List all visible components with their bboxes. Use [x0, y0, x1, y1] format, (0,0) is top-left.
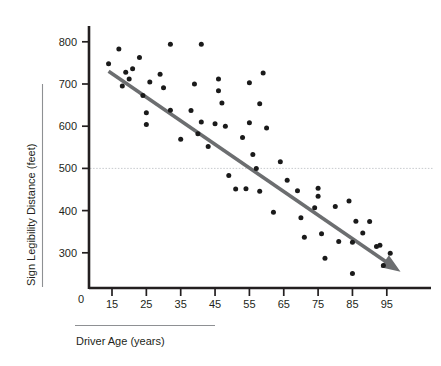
- y-tick-label-600: 600: [59, 120, 77, 132]
- data-point: [322, 256, 327, 261]
- data-point: [213, 121, 218, 126]
- data-point: [350, 240, 355, 245]
- data-point: [298, 215, 303, 220]
- data-point: [233, 187, 238, 192]
- data-point: [388, 251, 393, 256]
- scatter-plot-svg: 300400500600700800 152535455565758595 0 …: [0, 0, 441, 366]
- data-point: [189, 108, 194, 113]
- x-tick-label-45: 45: [209, 298, 221, 310]
- data-point: [127, 76, 132, 81]
- data-point: [116, 46, 121, 51]
- data-point: [243, 186, 248, 191]
- data-point: [137, 55, 142, 60]
- data-point: [219, 100, 224, 105]
- data-point: [144, 122, 149, 127]
- x-tick-label-55: 55: [243, 298, 255, 310]
- trend-line: [109, 71, 389, 263]
- data-point: [271, 210, 276, 215]
- x-tick-label-75: 75: [312, 298, 324, 310]
- data-point: [353, 219, 358, 224]
- x-axis-ticks-group: 152535455565758595: [106, 288, 393, 310]
- y-tick-label-500: 500: [59, 162, 77, 174]
- data-point: [178, 137, 183, 142]
- data-point: [367, 219, 372, 224]
- data-point: [158, 72, 163, 77]
- data-point: [199, 119, 204, 124]
- x-tick-label-85: 85: [346, 298, 358, 310]
- data-point: [302, 235, 307, 240]
- data-point: [223, 124, 228, 129]
- data-point: [226, 173, 231, 178]
- y-axis-ticks-group: 300400500600700800: [59, 36, 89, 259]
- data-point: [140, 93, 145, 98]
- data-point: [247, 80, 252, 85]
- data-point: [216, 88, 221, 93]
- data-point: [206, 144, 211, 149]
- x-tick-label-65: 65: [278, 298, 290, 310]
- data-point: [360, 230, 365, 235]
- data-point: [319, 231, 324, 236]
- y-tick-label-400: 400: [59, 205, 77, 217]
- y-tick-label-800: 800: [59, 36, 77, 48]
- data-point: [120, 84, 125, 89]
- data-point: [347, 198, 352, 203]
- data-point: [377, 243, 382, 248]
- data-point: [168, 108, 173, 113]
- x-tick-label-35: 35: [175, 298, 187, 310]
- data-point: [147, 79, 152, 84]
- data-point: [350, 271, 355, 276]
- y-tick-label-300: 300: [59, 247, 77, 259]
- data-point: [316, 186, 321, 191]
- data-point: [381, 263, 386, 268]
- data-point: [199, 42, 204, 47]
- x-axis-title: Driver Age (years): [76, 335, 165, 347]
- data-point: [250, 152, 255, 157]
- trend-line-group: [109, 71, 401, 271]
- data-point: [144, 110, 149, 115]
- data-point: [264, 125, 269, 130]
- data-point: [161, 85, 166, 90]
- data-point: [106, 61, 111, 66]
- data-point: [316, 194, 321, 199]
- data-point: [336, 239, 341, 244]
- x-tick-label-95: 95: [381, 298, 393, 310]
- data-point: [312, 205, 317, 210]
- data-point: [295, 188, 300, 193]
- x-tick-label-15: 15: [106, 298, 118, 310]
- data-point: [285, 178, 290, 183]
- data-point: [240, 135, 245, 140]
- data-point: [247, 120, 252, 125]
- data-point: [257, 101, 262, 106]
- data-point: [195, 131, 200, 136]
- data-point: [216, 76, 221, 81]
- data-point: [130, 66, 135, 71]
- data-point: [261, 71, 266, 76]
- data-point: [123, 70, 128, 75]
- data-point: [168, 42, 173, 47]
- data-point: [278, 159, 283, 164]
- origin-label: 0: [78, 293, 84, 305]
- data-point: [257, 189, 262, 194]
- y-axis-title: Sign Legibility Distance (feet): [25, 144, 37, 286]
- data-point: [192, 82, 197, 87]
- y-tick-label-700: 700: [59, 78, 77, 90]
- data-point: [254, 166, 259, 171]
- x-tick-label-25: 25: [140, 298, 152, 310]
- data-point: [333, 204, 338, 209]
- data-points-group: [106, 42, 393, 276]
